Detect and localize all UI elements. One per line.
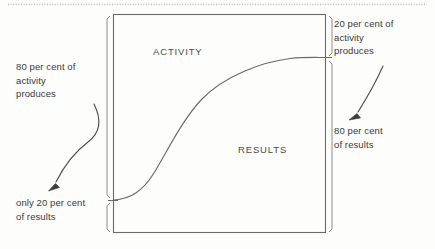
diagram-page: ACTIVITY RESULTS 80 per cent of activity… [0,0,435,249]
callout-left-bottom: only 20 per cent of results [16,196,112,223]
right-bracket-upper [329,16,332,56]
main-square-frame [114,15,326,233]
cumulative-curve [114,57,325,200]
right-bracket-lower [329,61,332,232]
right-callout-arrow-head [349,114,361,121]
callout-left-top: 80 per cent of activity produces [16,60,102,101]
right-callout-arrow-shaft [358,66,383,112]
region-label-activity: ACTIVITY [153,46,203,57]
region-label-results: RESULTS [238,144,287,155]
left-callout-arrow-head [49,184,60,192]
left-callout-arrow-shaft [56,104,99,182]
callout-right-bottom: 80 per cent of results [334,124,426,151]
left-bracket-upper [107,16,110,198]
callout-right-top: 20 per cent of activity produces [334,17,430,58]
